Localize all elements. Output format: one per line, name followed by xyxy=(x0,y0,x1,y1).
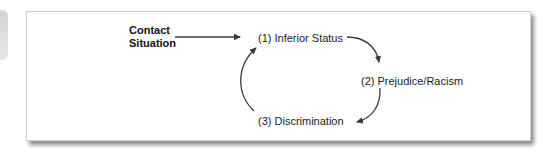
contact-situation-label-line1: Contact xyxy=(129,24,170,36)
contact-situation-label-line2: Situation xyxy=(129,37,176,49)
node-inferior-status: (1) Inferior Status xyxy=(258,32,343,44)
node-discrimination: (3) Discrimination xyxy=(258,115,344,127)
node-prejudice-racism: (2) Prejudice/Racism xyxy=(361,75,463,87)
side-tab xyxy=(0,10,8,60)
